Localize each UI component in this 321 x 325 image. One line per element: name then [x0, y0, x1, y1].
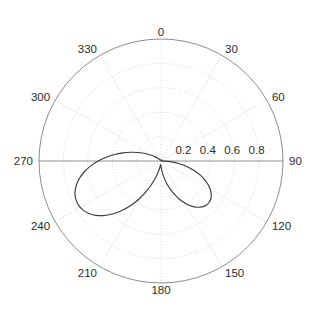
grid-spoke-240 [55, 161, 161, 222]
theta-label-300: 300 [31, 91, 50, 103]
r-label-0.8: 0.8 [249, 144, 265, 156]
theta-label-30: 30 [225, 43, 238, 55]
grid-spoke-150 [161, 161, 222, 267]
theta-label-150: 150 [225, 267, 244, 279]
series-radiation-pattern [75, 152, 211, 215]
radiation-pattern-curve [75, 152, 211, 215]
r-tick-labels: 0.20.40.60.8 [175, 144, 264, 156]
polar-axes: 0306090120150180210240270300330 0.20.40.… [0, 0, 321, 325]
theta-label-120: 120 [272, 220, 291, 232]
theta-label-180: 180 [151, 284, 170, 296]
r-label-0.6: 0.6 [224, 144, 240, 156]
theta-label-270: 270 [14, 155, 33, 167]
theta-label-240: 240 [31, 220, 50, 232]
polar-plot-figure: 0306090120150180210240270300330 0.20.40.… [0, 0, 321, 325]
theta-label-210: 210 [78, 267, 97, 279]
grid-spoke-300 [55, 100, 161, 161]
theta-label-60: 60 [272, 91, 285, 103]
theta-label-0: 0 [158, 26, 164, 38]
r-label-0.2: 0.2 [175, 144, 191, 156]
theta-label-330: 330 [78, 43, 97, 55]
grid-spoke-120 [161, 161, 267, 222]
r-label-0.4: 0.4 [200, 144, 217, 156]
grid-spoke-330 [100, 55, 161, 161]
theta-label-90: 90 [289, 155, 302, 167]
grid-spoke-210 [100, 161, 161, 267]
